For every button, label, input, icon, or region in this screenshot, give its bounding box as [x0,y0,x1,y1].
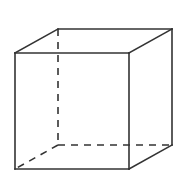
visible-edge-front-top-left-to-back-top-left [15,29,58,53]
visible-edges [15,29,172,169]
hidden-edge-back-bottom-left-to-front-bottom-left [15,145,58,169]
cube-wireframe [0,0,186,170]
hidden-edges [15,29,172,169]
visible-edge-front-bottom-right-to-back-bottom-right [129,145,172,169]
visible-edge-front-top-right-to-back-top-right [129,29,172,53]
cube-diagram [0,0,186,170]
